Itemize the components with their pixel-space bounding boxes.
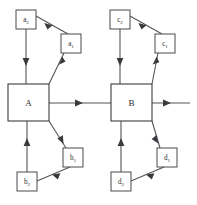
edge-c1-to-c2 bbox=[130, 16, 162, 34]
block-diagram-svg: A B a2 a1 b1 b2 c2 bbox=[0, 0, 197, 205]
edge-c2-to-B bbox=[117, 29, 124, 84]
edge-A-to-a1 bbox=[49, 53, 66, 84]
node-a1[interactable]: a1 bbox=[61, 34, 81, 53]
node-c2[interactable]: c2 bbox=[110, 10, 130, 29]
edge-d2-to-B bbox=[118, 121, 125, 172]
edge-B-to-output bbox=[152, 99, 190, 106]
edge-d1-to-d2 bbox=[131, 167, 164, 181]
node-d2[interactable]: d2 bbox=[111, 172, 131, 191]
node-d1[interactable]: d1 bbox=[157, 148, 177, 167]
edge-B-to-d1 bbox=[152, 121, 160, 148]
node-b2[interactable]: b2 bbox=[17, 172, 37, 191]
node-a2[interactable]: a2 bbox=[16, 10, 36, 29]
edge-b2-to-A bbox=[24, 121, 31, 172]
block-B-label: B bbox=[128, 98, 134, 108]
node-c1[interactable]: c1 bbox=[155, 34, 175, 53]
block-A-label: A bbox=[25, 98, 32, 108]
block-B[interactable]: B bbox=[111, 84, 152, 121]
edge-a2-to-A bbox=[23, 29, 30, 84]
edge-b1-to-b2 bbox=[37, 167, 70, 181]
block-A[interactable]: A bbox=[8, 84, 49, 121]
edge-a1-to-a2 bbox=[36, 16, 68, 34]
node-b1[interactable]: b1 bbox=[63, 148, 83, 167]
edge-A-to-B bbox=[49, 99, 111, 106]
diagram-canvas: A B a2 a1 b1 b2 c2 bbox=[0, 0, 197, 205]
edge-B-to-c1 bbox=[152, 53, 159, 84]
edge-A-to-b1 bbox=[49, 121, 66, 148]
